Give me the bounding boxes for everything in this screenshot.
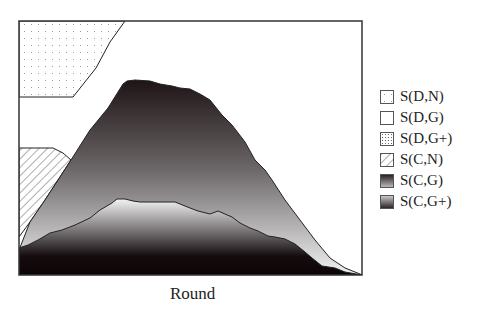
legend-item-s-d-g: S(D,G) — [380, 107, 452, 128]
legend-label: S(C,G+) — [400, 194, 451, 209]
legend-item-s-c-g: S(C,G) — [380, 170, 452, 191]
legend-label: S(D,G) — [400, 110, 444, 125]
legend-item-s-c-g-plus: S(C,G+) — [380, 191, 452, 212]
swatch-gradient-gray-icon — [380, 174, 394, 188]
swatch-white-icon — [380, 111, 394, 125]
legend-item-s-c-n: S(C,N) — [380, 149, 452, 170]
legend-item-s-d-n: S(D,N) — [380, 86, 452, 107]
swatch-sparse-dots-icon — [380, 90, 394, 104]
legend-label: S(C,G) — [400, 173, 443, 188]
legend-label: S(C,N) — [400, 152, 443, 167]
legend-item-s-d-g-plus: S(D,G+) — [380, 128, 452, 149]
swatch-hatch-icon — [380, 153, 394, 167]
swatch-gradient-dark-icon — [380, 195, 394, 209]
legend-label: S(D,N) — [400, 89, 444, 104]
x-axis-label: Round — [170, 284, 215, 304]
legend-label: S(D,G+) — [400, 131, 452, 146]
chart-legend: S(D,N) S(D,G) S(D,G+) S(C,N) S(C,G) S(C,… — [380, 86, 452, 212]
swatch-dense-dots-icon — [380, 132, 394, 146]
